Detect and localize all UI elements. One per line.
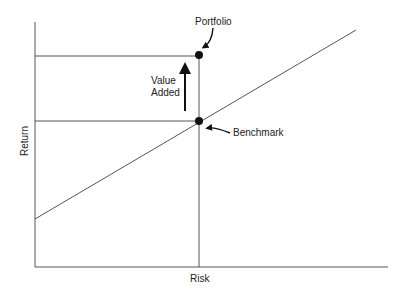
- benchmark-label: Benchmark: [233, 127, 285, 138]
- portfolio-label: Portfolio: [195, 16, 232, 27]
- diagram-canvas: Portfolio Benchmark Value Added Risk Ret…: [0, 0, 408, 294]
- value-added-label-line2: Added: [151, 87, 180, 98]
- risk-return-diagram: Portfolio Benchmark Value Added Risk Ret…: [0, 0, 408, 294]
- portfolio-point: [195, 51, 203, 59]
- benchmark-callout-arrow: [208, 128, 230, 133]
- market-line: [35, 30, 356, 219]
- y-axis-label: Return: [19, 126, 30, 156]
- value-added-label-line1: Value: [151, 75, 176, 86]
- portfolio-callout-arrow: [204, 28, 213, 47]
- x-axis-label: Risk: [190, 273, 210, 284]
- benchmark-point: [195, 117, 203, 125]
